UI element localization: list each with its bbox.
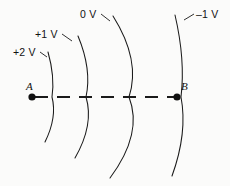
label-plus-two-volts: +2 V <box>13 46 36 58</box>
point-a-label: A <box>26 80 33 92</box>
leader-line-plus-two-volts <box>40 52 47 57</box>
leader-line-minus-one-volt <box>184 14 194 20</box>
leader-line-zero-volts <box>101 14 110 21</box>
leader-line-plus-one-volt <box>62 34 72 41</box>
point-b-dot <box>173 93 180 100</box>
equipotential-figure: +2 V +1 V 0 V –1 V A B <box>0 0 230 186</box>
point-b-label: B <box>181 80 188 92</box>
label-zero-volts: 0 V <box>80 8 96 20</box>
label-plus-one-volt: +1 V <box>35 28 58 40</box>
point-a-dot <box>28 93 35 100</box>
label-minus-one-volt: –1 V <box>196 8 218 20</box>
